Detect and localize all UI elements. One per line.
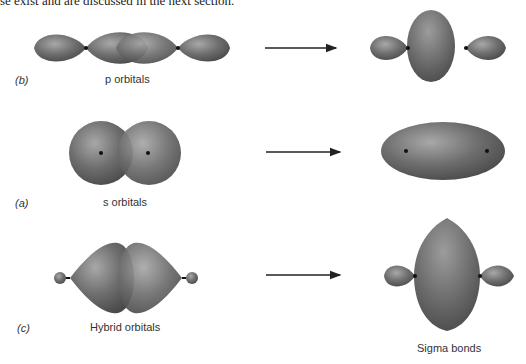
hybrid-orbitals-figure: [54, 243, 198, 314]
pi-bond-result-figure: [370, 10, 506, 82]
panel-label-a: (a): [15, 197, 28, 209]
p-orbitals-label: p orbitals: [105, 73, 150, 85]
s-orbitals-figure: [69, 121, 181, 185]
sigma-bond-result-figure: [384, 218, 514, 331]
p-orbitals-figure: [34, 32, 230, 64]
panel-label-c: (c): [17, 322, 30, 334]
sigma-bonds-label: Sigma bonds: [417, 342, 481, 354]
hybrid-orbitals-label: Hybrid orbitals: [90, 321, 160, 333]
s-bond-result-figure: [381, 122, 505, 180]
panel-label-b: (b): [15, 74, 28, 86]
orbital-diagram: [0, 0, 526, 364]
s-orbitals-label: s orbitals: [103, 196, 147, 208]
